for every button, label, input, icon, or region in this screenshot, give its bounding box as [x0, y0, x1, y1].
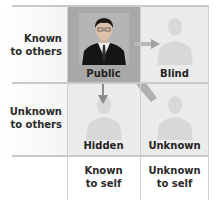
quadrant-label-blind: Blind: [141, 68, 208, 79]
quadrant-label-public: Public: [67, 68, 140, 79]
grid-line-middle: [12, 82, 208, 84]
arrow-diagonal-icon: [135, 82, 157, 102]
grid-line-col3: [208, 5, 209, 200]
row-label-known-to-others: Known to others: [0, 32, 62, 58]
faded-person-silhouette: [155, 13, 195, 65]
col-label-line2: to self: [67, 177, 140, 190]
arrow-down-icon: [97, 82, 109, 104]
arrow-right-icon: [134, 38, 160, 50]
faded-person-silhouette: [155, 92, 195, 140]
col-label-line1: Known: [67, 164, 140, 177]
row-label-line2: to others: [0, 118, 62, 131]
grid-line-top: [12, 5, 208, 7]
row-label-line1: Unknown: [0, 105, 62, 118]
quadrant-public: Public: [67, 7, 140, 83]
person-photo: [79, 13, 129, 65]
col-label-line1: Unknown: [141, 164, 208, 177]
grid-line-bottom: [12, 155, 208, 157]
row-label-unknown-to-others: Unknown to others: [0, 105, 62, 131]
row-label-line1: Known: [0, 32, 62, 45]
col-label-known-to-self: Known to self: [67, 164, 140, 190]
row-label-column: [0, 7, 67, 155]
col-label-line2: to self: [141, 177, 208, 190]
row-label-line2: to others: [0, 45, 62, 58]
quadrant-label-hidden: Hidden: [67, 140, 140, 151]
col-label-unknown-to-self: Unknown to self: [141, 164, 208, 190]
quadrant-label-unknown: Unknown: [141, 140, 208, 151]
